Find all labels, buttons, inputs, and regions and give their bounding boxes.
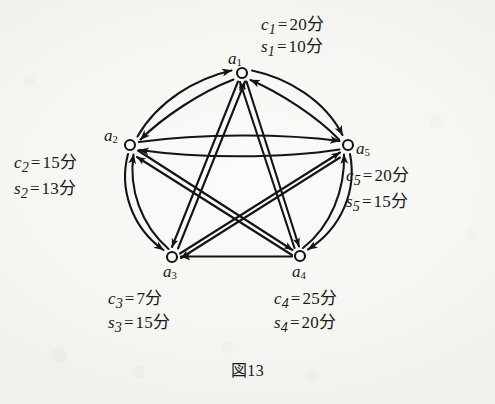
attribute-c4: c4=25分 (274, 288, 337, 313)
node-label-a4-symbol: a (292, 262, 301, 281)
attribute-c1-index: 1 (269, 21, 276, 37)
attribute-c4-index: 4 (282, 295, 289, 311)
attribute-c2-eq: = (29, 153, 43, 172)
attribute-s1-unit: 分 (306, 37, 323, 56)
node-a5[interactable] (343, 140, 353, 150)
attribute-c3-unit: 分 (145, 289, 162, 308)
attribute-c1-unit: 分 (307, 15, 324, 34)
node-label-a1-index: 1 (237, 56, 242, 68)
node-label-a3: a3 (163, 261, 177, 283)
attribute-c3-eq: = (123, 289, 137, 308)
node-label-a1: a1 (228, 48, 242, 70)
node-label-a4: a4 (292, 261, 306, 283)
attribute-s5-unit: 分 (391, 192, 408, 211)
node-label-a2-index: 2 (113, 133, 118, 145)
node-label-a2-symbol: a (104, 126, 113, 145)
attribute-s4: s4=20分 (274, 312, 336, 337)
attribute-c5-unit: 分 (392, 166, 409, 185)
attribute-c5-index: 5 (354, 172, 361, 188)
attribute-c1-eq: = (276, 15, 290, 34)
attribute-c4-unit: 分 (320, 289, 337, 308)
attribute-s5-eq: = (360, 192, 374, 211)
edge-a1-to-a4 (247, 82, 300, 247)
attribute-c1-value: 20 (290, 15, 307, 34)
node-label-a5-symbol: a (356, 139, 365, 158)
edge-a4-to-a1 (240, 82, 295, 248)
node-label-a5: a5 (356, 138, 370, 160)
attribute-s1-value: 10 (289, 37, 306, 56)
attribute-s2: s2=13分 (14, 178, 76, 203)
attribute-s2-eq: = (28, 179, 42, 198)
attribute-c3-value: 7 (137, 289, 146, 308)
attribute-s3-unit: 分 (153, 313, 170, 332)
node-label-a4-index: 4 (301, 269, 306, 281)
attribute-s1: s1=10分 (261, 36, 323, 61)
figure-13: a1 a2 a3 a4 a5 c1=20分 s1=10分 c2=15分 s2=1… (0, 0, 495, 404)
attribute-s1-symbol: s (261, 37, 268, 56)
attribute-c4-symbol: c (274, 289, 282, 308)
attribute-c3: c3=7分 (108, 288, 162, 313)
edge-a5-to-a2 (140, 150, 340, 157)
node-label-a1-symbol: a (228, 49, 237, 68)
attribute-s5-symbol: s (346, 192, 353, 211)
attribute-s4-eq: = (288, 313, 302, 332)
attribute-s5: s5=15分 (346, 191, 408, 216)
node-a4[interactable] (295, 251, 305, 261)
node-a2[interactable] (125, 140, 135, 150)
attribute-s2-unit: 分 (59, 179, 76, 198)
attribute-s4-index: 4 (281, 319, 288, 335)
node-label-a5-index: 5 (365, 146, 370, 158)
attribute-s1-eq: = (275, 37, 289, 56)
attribute-c2-symbol: c (14, 153, 22, 172)
attribute-c3-symbol: c (108, 289, 116, 308)
edge-a2-to-a1 (138, 71, 232, 137)
attribute-s3-index: 3 (115, 319, 122, 335)
attribute-c2-value: 15 (43, 153, 60, 172)
attribute-s2-value: 13 (42, 179, 59, 198)
edge-layer (125, 71, 352, 259)
attribute-c5-eq: = (361, 166, 375, 185)
attribute-c3-index: 3 (116, 295, 123, 311)
attribute-c1-symbol: c (261, 15, 269, 34)
edge-a2-to-a3 (125, 154, 163, 250)
attribute-c4-eq: = (289, 289, 303, 308)
attribute-s1-index: 1 (268, 43, 275, 59)
attribute-c2-index: 2 (22, 159, 29, 175)
attribute-s4-unit: 分 (319, 313, 336, 332)
attribute-c5-value: 20 (375, 166, 392, 185)
attribute-s3-symbol: s (108, 313, 115, 332)
attribute-s3-value: 15 (136, 313, 153, 332)
edge-a1-to-a5 (252, 71, 343, 136)
node-label-a3-symbol: a (163, 262, 172, 281)
edge-a2-to-a5 (139, 135, 340, 142)
attribute-c4-value: 25 (303, 289, 320, 308)
attribute-s3-eq: = (122, 313, 136, 332)
attribute-c5: c5=20分 (346, 165, 409, 190)
attribute-s5-index: 5 (353, 198, 360, 214)
attribute-s3: s3=15分 (108, 312, 170, 337)
attribute-s5-value: 15 (374, 192, 391, 211)
attribute-s2-index: 2 (21, 185, 28, 201)
attribute-c5-symbol: c (346, 166, 354, 185)
edge-a2-to-a4 (138, 151, 293, 251)
attribute-c2-unit: 分 (60, 153, 77, 172)
attribute-s4-symbol: s (274, 313, 281, 332)
edge-a3-to-a2 (132, 155, 168, 250)
attribute-s4-value: 20 (302, 313, 319, 332)
attribute-c2: c2=15分 (14, 152, 77, 177)
figure-caption: 図13 (0, 357, 495, 381)
attribute-s2-symbol: s (14, 179, 21, 198)
node-label-a2: a2 (104, 125, 118, 147)
node-label-a3-index: 3 (172, 269, 177, 281)
